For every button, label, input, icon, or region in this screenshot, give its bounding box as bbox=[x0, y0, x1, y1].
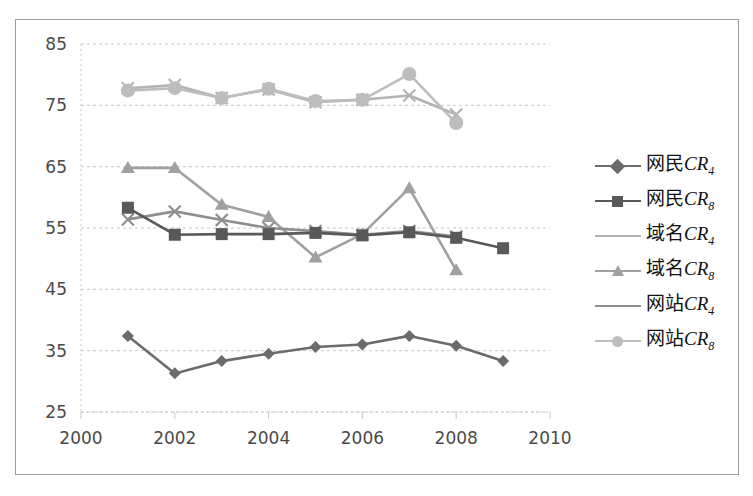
legend-marker bbox=[612, 231, 623, 242]
legend-marker bbox=[612, 301, 623, 312]
data-point-circle bbox=[121, 84, 135, 98]
legend-marker-diamond-icon bbox=[595, 157, 641, 175]
legend-label-cn: 网民 bbox=[646, 188, 684, 209]
legend-label-cr: CR bbox=[684, 258, 708, 279]
legend-label-subscript: 8 bbox=[708, 339, 714, 353]
legend-label-subscript: 4 bbox=[708, 164, 714, 178]
y-tick-label: 55 bbox=[45, 218, 67, 238]
data-point-square bbox=[169, 229, 181, 241]
y-tick-label: 85 bbox=[45, 34, 67, 54]
data-point-square bbox=[263, 228, 275, 240]
legend-item-网民CR4[interactable]: 网民CR4 bbox=[595, 148, 745, 183]
legend-label-cn: 域名 bbox=[646, 223, 684, 244]
legend-label-subscript: 8 bbox=[708, 199, 714, 213]
data-point-circle bbox=[215, 91, 229, 105]
series-line bbox=[128, 168, 456, 270]
legend-label-cn: 网站 bbox=[646, 293, 684, 314]
data-point-square bbox=[497, 242, 509, 254]
chart-page: 25354555657585200020022004200620082010 网… bbox=[0, 0, 753, 496]
legend-label-cr: CR bbox=[684, 188, 708, 209]
x-tick-label: 2002 bbox=[153, 428, 196, 448]
data-point-circle bbox=[262, 82, 276, 96]
y-tick-label: 75 bbox=[45, 95, 67, 115]
legend-item-域名CR4[interactable]: 域名CR4 bbox=[595, 218, 745, 253]
legend-label: 网站CR4 bbox=[646, 294, 714, 317]
data-point-square bbox=[356, 229, 368, 241]
data-point-diamond bbox=[356, 339, 368, 351]
legend-label-subscript: 4 bbox=[708, 234, 714, 248]
legend-item-域名CR8[interactable]: 域名CR8 bbox=[595, 253, 745, 288]
x-tick-label: 2000 bbox=[59, 428, 102, 448]
legend-marker-triangle-icon bbox=[595, 262, 641, 280]
legend-label-cr: CR bbox=[684, 328, 708, 349]
legend-item-网站CR4[interactable]: 网站CR4 bbox=[595, 288, 745, 323]
legend-label: 域名CR4 bbox=[646, 224, 714, 247]
legend-label: 网民CR4 bbox=[646, 154, 714, 177]
legend-label: 域名CR8 bbox=[646, 259, 714, 282]
y-tick-label: 45 bbox=[45, 279, 67, 299]
data-point-circle bbox=[168, 81, 182, 95]
data-point-square bbox=[216, 228, 228, 240]
legend-label-cr: CR bbox=[684, 293, 708, 314]
legend-marker bbox=[612, 336, 623, 347]
legend-label-cr: CR bbox=[684, 223, 708, 244]
y-tick-label: 25 bbox=[45, 402, 67, 422]
legend-item-网站CR8[interactable]: 网站CR8 bbox=[595, 323, 745, 358]
legend-marker bbox=[612, 265, 624, 276]
y-tick-label: 65 bbox=[45, 157, 67, 177]
data-point-circle bbox=[449, 116, 463, 130]
x-tick-label: 2006 bbox=[341, 428, 384, 448]
series-网民CR4 bbox=[122, 330, 509, 379]
data-point-triangle bbox=[402, 181, 416, 193]
legend-marker bbox=[612, 196, 623, 207]
data-point-diamond bbox=[497, 355, 509, 367]
y-tick-label: 35 bbox=[45, 341, 67, 361]
legend-marker-x-icon bbox=[595, 297, 641, 315]
legend-label: 网站CR8 bbox=[646, 329, 714, 352]
data-point-diamond bbox=[450, 340, 462, 352]
legend-label-subscript: 4 bbox=[708, 304, 714, 318]
legend-label-cn: 网站 bbox=[646, 328, 684, 349]
x-tick-label: 2010 bbox=[528, 428, 571, 448]
data-point-circle bbox=[402, 67, 416, 81]
data-point-diamond bbox=[263, 348, 275, 360]
x-tick-label: 2004 bbox=[247, 428, 290, 448]
legend-marker-x-icon bbox=[595, 227, 641, 245]
data-point-square bbox=[122, 202, 134, 214]
legend-label-cr: CR bbox=[684, 153, 708, 174]
x-tick-label: 2008 bbox=[435, 428, 478, 448]
legend-marker-circle-icon bbox=[595, 332, 641, 350]
data-point-square bbox=[450, 232, 462, 244]
legend-marker-square-icon bbox=[595, 192, 641, 210]
legend-label-cn: 域名 bbox=[646, 258, 684, 279]
data-point-square bbox=[310, 227, 322, 239]
chart-legend: 网民CR4网民CR8域名CR4域名CR8网站CR4网站CR8 bbox=[595, 148, 745, 358]
legend-label: 网民CR8 bbox=[646, 189, 714, 212]
data-point-diamond bbox=[310, 341, 322, 353]
legend-label-subscript: 8 bbox=[708, 269, 714, 283]
data-point-circle bbox=[309, 94, 323, 108]
series-域名CR8 bbox=[121, 161, 463, 275]
data-point-triangle bbox=[449, 263, 463, 275]
legend-item-网民CR8[interactable]: 网民CR8 bbox=[595, 183, 745, 218]
data-point-diamond bbox=[216, 355, 228, 367]
legend-marker bbox=[610, 158, 626, 174]
data-point-square bbox=[403, 226, 415, 238]
data-point-diamond bbox=[403, 330, 415, 342]
legend-label-cn: 网民 bbox=[646, 153, 684, 174]
data-point-circle bbox=[355, 93, 369, 107]
